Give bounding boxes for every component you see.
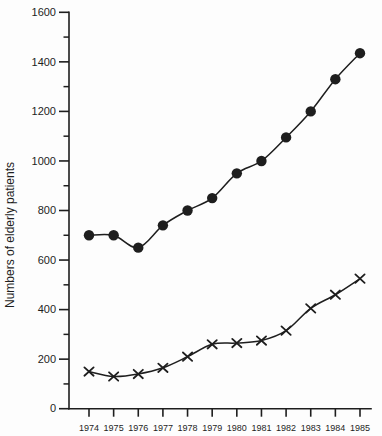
- x-tick-label: 1985: [350, 423, 370, 433]
- x-tick-label: 1974: [79, 423, 99, 433]
- circle-marker: [108, 230, 118, 240]
- x-tick-label: 1981: [251, 423, 271, 433]
- x-tick-label: 1977: [153, 423, 173, 433]
- y-tick-label: 800: [38, 204, 56, 216]
- y-tick-label: 1600: [32, 6, 56, 18]
- y-axis-title: Numbers of elderly patients: [3, 162, 17, 308]
- circle-marker: [84, 230, 94, 240]
- y-tick-label: 1000: [32, 155, 56, 167]
- elderly-patients-line-chart: 0200400600800100012001400160019741975197…: [0, 0, 382, 436]
- circle-marker: [232, 168, 242, 178]
- y-tick-label: 600: [38, 254, 56, 266]
- chart-figure: 0200400600800100012001400160019741975197…: [0, 0, 382, 436]
- y-tick-label: 200: [38, 353, 56, 365]
- x-tick-label: 1982: [276, 423, 296, 433]
- circle-marker: [207, 193, 217, 203]
- y-tick-label: 1400: [32, 56, 56, 68]
- circle-marker: [306, 106, 316, 116]
- x-tick-label: 1980: [227, 423, 247, 433]
- x-tick-label: 1975: [104, 423, 124, 433]
- x-tick-label: 1979: [202, 423, 222, 433]
- circle-marker: [182, 205, 192, 215]
- y-tick-label: 400: [38, 303, 56, 315]
- circle-marker: [158, 220, 168, 230]
- circle-marker: [330, 74, 340, 84]
- y-tick-label: 0: [50, 402, 56, 414]
- circle-marker: [355, 48, 365, 58]
- chart-background: [0, 0, 382, 436]
- x-tick-label: 1984: [325, 423, 345, 433]
- circle-marker: [256, 156, 266, 166]
- x-tick-label: 1978: [178, 423, 198, 433]
- x-tick-label: 1976: [128, 423, 148, 433]
- circle-marker: [133, 242, 143, 252]
- circle-marker: [281, 132, 291, 142]
- y-tick-label: 1200: [32, 105, 56, 117]
- x-tick-label: 1983: [301, 423, 321, 433]
